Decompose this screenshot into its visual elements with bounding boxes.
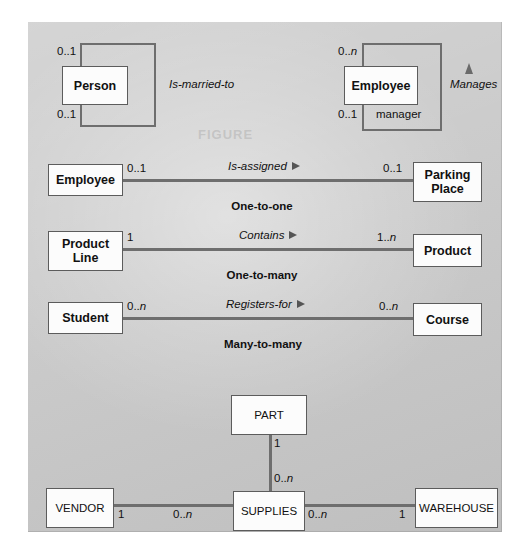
entity-product-line[interactable]: Product Line <box>48 231 123 271</box>
connector-line-many-to-many <box>123 317 413 320</box>
arrow-up-icon-manages <box>465 63 473 74</box>
cardinality-many-to-many-right: 0..n <box>379 300 398 312</box>
caption-one-to-one: One-to-one <box>202 200 322 212</box>
cardinality-one-to-one-right: 0..1 <box>383 162 402 174</box>
connector-line-one-to-one <box>123 179 413 182</box>
cardinality-person-bottom: 0..1 <box>57 108 76 120</box>
arrow-right-icon-registers-for <box>297 300 305 308</box>
cardinality-one-to-one-left: 0..1 <box>127 162 146 174</box>
relationship-label-contains: Contains <box>239 229 297 241</box>
connector-line-part-supplies <box>269 433 272 493</box>
connector-line-vendor-supplies <box>113 504 236 507</box>
arrow-right-icon-contains <box>289 231 297 239</box>
entity-person-label: Person <box>74 79 116 93</box>
entity-vendor[interactable]: VENDOR <box>46 488 114 528</box>
cardinality-employee-bottom: 0..1 <box>338 108 357 120</box>
cardinality-person-top: 0..1 <box>57 45 76 57</box>
relationship-label-is-assigned: Is-assigned <box>228 160 300 172</box>
cardinality-one-to-many-right: 1..n <box>377 231 396 243</box>
cardinality-supplies-left: 0..n <box>173 508 192 520</box>
diagram-canvas: FIGURE Person 0..1 0..1 Is-married-to Em… <box>28 22 502 532</box>
cardinality-part-side: 1 <box>274 437 280 449</box>
entity-course[interactable]: Course <box>413 303 482 336</box>
entity-student[interactable]: Student <box>48 302 123 334</box>
cardinality-supplies-right: 0..n <box>308 508 327 520</box>
caption-one-to-many: One-to-many <box>202 269 322 281</box>
cardinality-employee-top: 0..n <box>338 45 357 57</box>
cardinality-vendor-side: 1 <box>118 508 124 520</box>
relationship-label-registers-for: Registers-for <box>226 298 305 310</box>
relationship-label-manages: Manages <box>450 78 497 90</box>
cardinality-warehouse-side: 1 <box>399 508 405 520</box>
entity-warehouse[interactable]: WAREHOUSE <box>415 488 498 528</box>
scan-ghost-artifact: FIGURE <box>198 127 253 142</box>
caption-many-to-many: Many-to-many <box>199 338 327 350</box>
entity-employee-one-to-one[interactable]: Employee <box>48 164 123 196</box>
role-label-manager: manager <box>376 108 421 120</box>
cardinality-supplies-top: 0..n <box>274 472 293 484</box>
entity-supplies[interactable]: SUPPLIES <box>233 491 305 531</box>
entity-person[interactable]: Person <box>62 66 128 105</box>
cardinality-many-to-many-left: 0..n <box>127 300 146 312</box>
cardinality-one-to-many-left: 1 <box>127 231 133 243</box>
relationship-label-is-married-to: Is-married-to <box>169 78 234 90</box>
entity-employee-recursive[interactable]: Employee <box>344 66 418 105</box>
arrow-right-icon-is-assigned <box>292 162 300 170</box>
entity-parking-place[interactable]: Parking Place <box>413 162 482 202</box>
entity-employee-recursive-label: Employee <box>351 79 410 93</box>
connector-line-supplies-warehouse <box>303 504 416 507</box>
entity-product[interactable]: Product <box>413 234 482 267</box>
connector-line-one-to-many <box>123 248 413 251</box>
entity-part[interactable]: PART <box>231 395 307 435</box>
